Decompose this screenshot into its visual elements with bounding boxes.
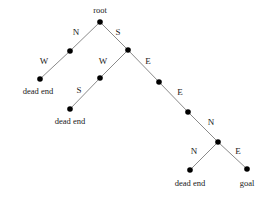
- search-tree-diagram: NSWWESENNE rootdead enddead enddead endg…: [0, 0, 272, 198]
- edge-label-s: S: [76, 85, 81, 95]
- tree-node-root: [97, 19, 103, 25]
- tree-node-n_s: [125, 47, 131, 53]
- tree-edge: [70, 78, 100, 109]
- node-label-n_seene: goal: [240, 178, 255, 188]
- edge-label-n: N: [191, 146, 198, 156]
- edge-label-n: N: [73, 27, 80, 37]
- edges-group: [40, 22, 247, 170]
- tree-node-n_n: [67, 48, 73, 54]
- edge-label-w: W: [99, 56, 108, 66]
- tree-node-n_see: [185, 109, 191, 115]
- tree-edge: [100, 22, 128, 50]
- node-label-n_sws: dead end: [55, 116, 86, 126]
- tree-node-n_seenn: [187, 167, 193, 173]
- nodes-group: [37, 19, 250, 173]
- tree-node-n_seene: [244, 166, 250, 172]
- edge-label-n: N: [208, 117, 215, 127]
- node-label-root: root: [93, 5, 107, 15]
- edge-label-s: S: [115, 27, 120, 37]
- tree-node-n_sws: [67, 106, 73, 112]
- tree-edge: [218, 142, 247, 169]
- tree-node-n_se: [156, 79, 162, 85]
- node-label-n_seenn: dead end: [175, 178, 206, 188]
- node-label-n_nw: dead end: [23, 86, 54, 96]
- node-labels-group: rootdead enddead enddead endgoal: [23, 5, 255, 188]
- edge-labels-group: NSWWESENNE: [40, 27, 242, 156]
- edge-label-w: W: [40, 56, 49, 66]
- tree-node-n_sw: [97, 75, 103, 81]
- tree-node-n_seen: [215, 139, 221, 145]
- tree-edge: [128, 50, 159, 82]
- tree-edge: [159, 82, 188, 112]
- edge-label-e: E: [145, 56, 151, 66]
- edge-label-e: E: [177, 87, 183, 97]
- edge-label-e: E: [235, 146, 241, 156]
- tree-node-n_nw: [37, 76, 43, 82]
